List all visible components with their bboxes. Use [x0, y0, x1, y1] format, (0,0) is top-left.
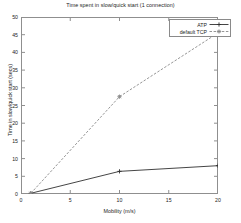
series-atp — [29, 164, 218, 194]
x-tick-label: 0 — [20, 197, 23, 203]
y-tick-label: 30 — [12, 85, 18, 91]
legend-label: default TCP — [180, 29, 207, 35]
plot-area — [21, 17, 218, 194]
plot-series-svg — [21, 17, 218, 194]
y-tick-label: 15 — [12, 138, 18, 144]
y-axis-tick-labels: 05101520253035404550 — [2, 17, 18, 194]
x-axis-label: Mobility (m/s) — [21, 208, 218, 214]
legend-item: ATP — [170, 21, 230, 28]
x-tick-label: 10 — [117, 197, 123, 203]
legend-item: default TCP — [170, 28, 230, 35]
x-tick-label: 15 — [166, 197, 172, 203]
chart-title: Time spent in slow/quick start (1 connec… — [0, 2, 241, 8]
x-tick-label: 5 — [69, 197, 72, 203]
x-tick-label: 20 — [215, 197, 221, 203]
y-tick-label: 45 — [12, 32, 18, 38]
x-axis-tick-labels: 05101520 — [21, 197, 218, 206]
y-tick-label: 10 — [12, 156, 18, 162]
legend-label: ATP — [197, 22, 207, 28]
series-default-tcp — [29, 31, 218, 194]
legend-line-sample — [209, 28, 229, 35]
chart-legend: ATPdefault TCP — [169, 19, 231, 37]
y-tick-label: 5 — [15, 173, 18, 179]
y-tick-label: 50 — [12, 14, 18, 20]
legend-line-sample — [209, 21, 229, 28]
y-tick-label: 20 — [12, 120, 18, 126]
y-tick-label: 35 — [12, 67, 18, 73]
y-tick-label: 0 — [15, 191, 18, 197]
y-tick-label: 25 — [12, 103, 18, 109]
chart-container: Time spent in slow/quick start (1 connec… — [0, 0, 241, 223]
y-tick-label: 40 — [12, 49, 18, 55]
